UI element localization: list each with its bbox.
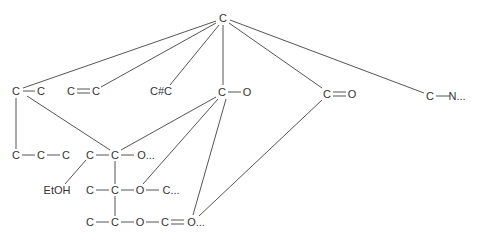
bond-line: [27, 96, 110, 150]
atom-label-cd2: O: [348, 88, 357, 100]
atom-label-b2: C: [92, 85, 100, 97]
bond-line: [230, 20, 424, 93]
atom-label-s3: O: [136, 184, 145, 196]
atom-label-u1: C: [86, 216, 94, 228]
atom-label-etoh: EtOH: [44, 184, 71, 196]
atom-label-u3: O: [136, 216, 145, 228]
atom-label-a1: C: [12, 85, 20, 97]
bond-lines: [16, 20, 450, 224]
atom-label-co1: C: [218, 86, 226, 98]
atom-label-p2: C: [37, 149, 45, 161]
atom-label-p1: C: [12, 149, 20, 161]
bond-line: [121, 97, 216, 150]
bond-line: [193, 99, 226, 215]
atom-label-t1: C#C: [150, 85, 172, 97]
bond-line: [143, 99, 218, 184]
bond-line: [229, 23, 322, 88]
atom-label-s2: C: [111, 184, 119, 196]
atom-labels: CCCCCC#CCOCOCN...CCCCCO...EtOHCCOC...CCO…: [12, 12, 466, 228]
atom-label-r1: C: [86, 149, 94, 161]
bond-line: [199, 100, 322, 216]
atom-label-root: C: [219, 12, 227, 24]
atom-label-u5: O...: [187, 216, 205, 228]
atom-label-u4: C: [161, 216, 169, 228]
atom-label-s1: C: [86, 184, 94, 196]
atom-label-r3: O...: [137, 149, 155, 161]
atom-label-u2: C: [111, 216, 119, 228]
molecule-tree-diagram: CCCCCC#CCOCOCN...CCCCCO...EtOHCCOC...CCO…: [0, 0, 477, 244]
atom-label-cn2: N...: [448, 90, 465, 102]
atom-label-s4: C...: [162, 184, 179, 196]
atom-label-a2: C: [37, 85, 45, 97]
bond-line: [23, 21, 216, 88]
atom-label-p3: C: [62, 149, 70, 161]
bond-line: [65, 160, 86, 184]
atom-label-r2: C: [111, 149, 119, 161]
atom-label-b1: C: [67, 85, 75, 97]
atom-label-cn1: C: [426, 90, 434, 102]
atom-label-cd1: C: [323, 88, 331, 100]
atom-label-co2: O: [243, 86, 252, 98]
